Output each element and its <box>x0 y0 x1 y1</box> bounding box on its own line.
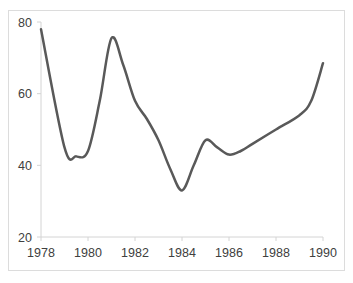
y-axis-tick-labels: 20406080 <box>18 16 32 245</box>
x-axis-tick-label: 1980 <box>74 246 102 260</box>
x-axis <box>41 237 323 241</box>
x-axis-ticks <box>41 237 323 241</box>
data-series-line <box>41 29 323 190</box>
x-axis-tick-label: 1988 <box>262 246 290 260</box>
y-axis-tick-label: 60 <box>18 87 32 101</box>
y-axis-ticks <box>37 22 41 237</box>
y-axis-tick-label: 80 <box>18 16 32 30</box>
y-axis-tick-label: 20 <box>18 231 32 245</box>
y-axis <box>37 22 41 237</box>
y-axis-tick-label: 40 <box>18 159 32 173</box>
x-axis-tick-label: 1982 <box>121 246 149 260</box>
x-axis-tick-label: 1984 <box>168 246 196 260</box>
x-axis-tick-label: 1978 <box>27 246 55 260</box>
x-axis-tick-label: 1986 <box>215 246 243 260</box>
x-axis-tick-labels: 1978198019821984198619881990 <box>27 246 337 260</box>
line-chart: 20406080 1978198019821984198619881990 <box>0 0 353 283</box>
x-axis-tick-label: 1990 <box>309 246 337 260</box>
